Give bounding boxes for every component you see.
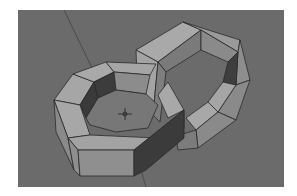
3d-viewport[interactable] <box>18 10 284 187</box>
axis-line <box>64 10 93 70</box>
scene-canvas <box>18 10 284 187</box>
octagonal-ring-back-right[interactable] <box>136 22 250 150</box>
